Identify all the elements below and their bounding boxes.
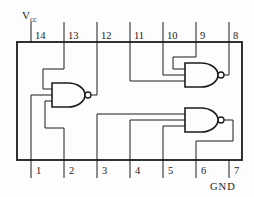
wire-pin5-to-bottom-right-gate-input3 <box>163 126 185 160</box>
ic-pinout-diagram: 1411321231141059687VccGND <box>0 0 254 197</box>
circuit-svg: 1411321231141059687VccGND <box>0 0 254 197</box>
pin-number-5: 5 <box>168 165 173 176</box>
wire-pin3-to-bottom-right-gate-input1 <box>97 114 185 160</box>
gnd-label: GND <box>210 181 236 192</box>
pin-number-3: 3 <box>102 165 107 176</box>
pin-number-10: 10 <box>167 30 178 41</box>
pin-number-11: 11 <box>134 30 144 41</box>
nand-gate-top-right-inversion-bubble <box>218 72 224 78</box>
nand-gate-bottom-right <box>185 108 218 132</box>
pin-number-7: 7 <box>234 165 239 176</box>
wire-left-gate-output-to-pin12 <box>91 42 97 95</box>
nand-gate-left-inversion-bubble <box>85 92 91 98</box>
nand-gate-top-right <box>185 63 218 87</box>
pin-number-12: 12 <box>101 30 112 41</box>
wire-pin13-to-left-gate-input1 <box>43 42 64 89</box>
pin-number-2: 2 <box>69 165 74 176</box>
pin-number-4: 4 <box>135 165 141 176</box>
pin-number-9: 9 <box>200 30 205 41</box>
pin-number-6: 6 <box>201 165 206 176</box>
nand-gate-left <box>52 83 85 107</box>
pin-number-8: 8 <box>233 30 238 41</box>
vcc-subscript-text: cc <box>30 15 37 24</box>
pin-number-14: 14 <box>35 30 46 41</box>
wire-top-right-gate-output-to-pin8 <box>224 42 229 75</box>
wire-pin10-to-top-right-gate-input2 <box>163 42 185 75</box>
wire-pin2-to-left-gate-input3 <box>45 101 64 160</box>
vcc-main-text: V <box>22 9 30 21</box>
pin-number-1: 1 <box>36 165 41 176</box>
nand-gate-bottom-right-inversion-bubble <box>218 117 224 123</box>
pin-number-13: 13 <box>68 30 79 41</box>
vcc-label: Vcc <box>22 9 37 24</box>
